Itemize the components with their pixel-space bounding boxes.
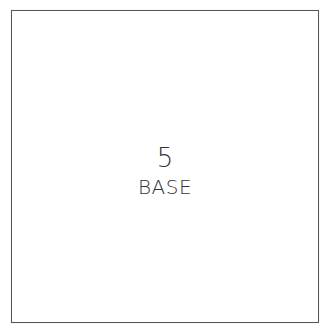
card-label: BASE [12, 174, 318, 200]
card-number: 5 [12, 143, 318, 173]
base-card[interactable]: 5 BASE [11, 10, 319, 323]
